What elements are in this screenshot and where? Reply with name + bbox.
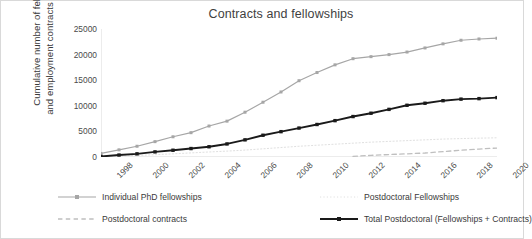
data-point-marker — [262, 101, 265, 104]
data-point-marker — [352, 57, 355, 60]
data-point-marker — [117, 153, 120, 156]
data-point-marker — [351, 115, 354, 118]
legend-swatch-icon — [319, 214, 359, 224]
data-point-marker — [243, 138, 246, 141]
data-point-marker — [424, 46, 427, 49]
data-point-marker — [154, 140, 157, 143]
x-axis-tick-labels: 1998200020022004200620082010201220142016… — [101, 158, 497, 188]
data-point-marker — [297, 126, 300, 129]
data-point-marker — [333, 119, 336, 122]
data-point-marker — [406, 51, 409, 54]
data-point-marker — [101, 152, 103, 155]
data-point-marker — [135, 152, 138, 155]
data-point-marker — [298, 79, 301, 82]
x-tick-label: 2002 — [186, 160, 206, 180]
chart-title: Contracts and fellowships — [151, 7, 411, 21]
data-point-marker — [280, 90, 283, 93]
data-point-marker — [190, 131, 193, 134]
data-point-marker — [477, 97, 480, 100]
data-point-marker — [441, 99, 444, 102]
legend-label: Postdoctoral contracts — [102, 214, 187, 224]
series-line — [353, 148, 497, 156]
data-point-marker — [316, 71, 319, 74]
data-point-marker — [118, 148, 121, 151]
x-tick-label: 2000 — [150, 160, 170, 180]
data-point-marker — [387, 108, 390, 111]
y-axis-tick-labels: 0500010000150002000025000 — [49, 29, 97, 157]
legend-item[interactable]: Individual PhD fellowships — [57, 192, 202, 202]
y-tick-label: 20000 — [53, 50, 97, 60]
legend-swatch-icon — [319, 192, 359, 202]
data-point-marker — [496, 37, 498, 40]
y-tick-label: 0 — [53, 152, 97, 162]
data-point-marker — [388, 53, 391, 56]
legend-label: Total Postdoctoral (Fellowships + Contra… — [364, 214, 532, 224]
legend-item[interactable]: Postdoctoral contracts — [57, 214, 187, 224]
x-tick-label: 2016 — [438, 160, 458, 180]
series-1 — [353, 148, 497, 156]
y-tick-label: 10000 — [53, 101, 97, 111]
data-point-marker — [261, 134, 264, 137]
x-tick-label: 1998 — [114, 160, 134, 180]
x-tick-label: 2014 — [402, 160, 422, 180]
data-point-marker — [405, 104, 408, 107]
plot-area — [101, 29, 497, 157]
data-point-marker — [442, 42, 445, 45]
y-tick-label: 25000 — [53, 24, 97, 34]
data-point-marker — [334, 63, 337, 66]
legend-label: Postdoctoral Fellowships — [364, 192, 459, 202]
legend-label: Individual PhD fellowships — [102, 192, 202, 202]
x-tick-label: 2008 — [294, 160, 314, 180]
x-tick-label: 2020 — [510, 160, 530, 180]
x-tick-label: 2010 — [330, 160, 350, 180]
data-point-marker — [207, 145, 210, 148]
data-point-marker — [315, 123, 318, 126]
chart-legend: Individual PhD fellowshipsPostdoctoral c… — [57, 192, 517, 236]
data-point-marker — [208, 125, 211, 128]
x-tick-label: 2004 — [222, 160, 242, 180]
series-3 — [101, 96, 497, 157]
data-point-marker — [136, 145, 139, 148]
data-point-marker — [225, 142, 228, 145]
data-point-marker — [495, 96, 497, 99]
legend-item[interactable]: Total Postdoctoral (Fellowships + Contra… — [319, 214, 532, 224]
data-point-marker — [226, 120, 229, 123]
data-point-marker — [460, 39, 463, 42]
x-tick-label: 2012 — [366, 160, 386, 180]
legend-swatch-icon — [57, 214, 97, 224]
series-canvas — [101, 29, 497, 157]
y-axis-title-line-1: Cumulative number of fellowships — [30, 0, 43, 106]
data-point-marker — [370, 55, 373, 58]
legend-item[interactable]: Postdoctoral Fellowships — [319, 192, 459, 202]
data-point-marker — [189, 147, 192, 150]
data-point-marker — [423, 102, 426, 105]
series-line — [101, 38, 497, 153]
data-point-marker — [244, 111, 247, 114]
data-point-marker — [171, 149, 174, 152]
data-point-marker — [279, 130, 282, 133]
data-point-marker — [101, 155, 103, 157]
data-point-marker — [369, 112, 372, 115]
data-point-marker — [153, 150, 156, 153]
data-point-marker — [459, 97, 462, 100]
x-tick-label: 2018 — [474, 160, 494, 180]
legend-swatch-icon — [57, 192, 97, 202]
data-point-marker — [478, 37, 481, 40]
x-tick-label: 2006 — [258, 160, 278, 180]
series-0 — [101, 37, 497, 155]
y-tick-label: 15000 — [53, 75, 97, 85]
data-point-marker — [172, 135, 175, 138]
y-tick-label: 5000 — [53, 126, 97, 136]
